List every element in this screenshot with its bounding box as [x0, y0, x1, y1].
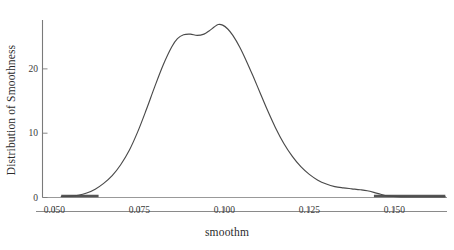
x-tick-label: 0.125 [299, 205, 320, 215]
y-axis-title-wrapper: Distribution of Smoothness [0, 0, 22, 220]
x-tick-label: 0.075 [129, 205, 150, 215]
y-tick-label: 0 [20, 193, 38, 203]
y-tick-marks [43, 69, 48, 198]
x-tick-label: 0.100 [214, 205, 235, 215]
y-tick-label: 20 [20, 64, 38, 74]
x-tick-label: 0.050 [44, 205, 65, 215]
x-tick-label: 0.150 [384, 205, 405, 215]
chart-figure: 0.0500.0750.1000.1250.150 01020 Distribu… [0, 0, 454, 250]
y-tick-label: 10 [20, 128, 38, 138]
axis-group [36, 20, 447, 212]
density-curve [61, 24, 445, 197]
x-axis-title: smoothm [0, 226, 454, 238]
y-axis-title: Distribution of Smoothness [5, 45, 17, 175]
